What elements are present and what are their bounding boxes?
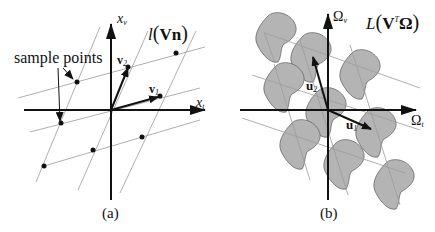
lattice-label-b: L(VTΩ) bbox=[366, 12, 419, 32]
v2-arrow bbox=[111, 68, 128, 110]
u1-label: u1 bbox=[346, 118, 357, 133]
omega-t-axis-label: Ωt bbox=[411, 114, 424, 129]
v2-label: v2 bbox=[117, 54, 127, 68]
sample-points-label: sample points bbox=[14, 50, 102, 66]
sample-points-pointers bbox=[58, 68, 73, 121]
x-t-axis-label: xt bbox=[196, 96, 204, 111]
u2-label: u2 bbox=[306, 79, 317, 94]
figure-canvas bbox=[0, 0, 435, 232]
lattice-label-a: l(Vn) bbox=[148, 23, 188, 43]
caption-b: (b) bbox=[320, 206, 338, 221]
caption-a: (a) bbox=[102, 206, 119, 221]
x-v-axis-label: xv bbox=[117, 12, 127, 27]
omega-v-axis-label: Ωv bbox=[333, 10, 347, 25]
v1-label: v1 bbox=[149, 83, 159, 97]
